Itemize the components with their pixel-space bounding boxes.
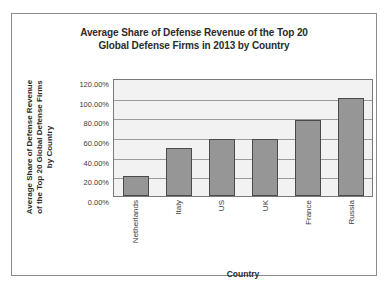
x-axis-tick-label: UK	[265, 189, 274, 200]
x-axis-tick-label: Netherlands	[135, 157, 144, 200]
x-axis-tick-labels: NetherlandsItalyUSUKFranceRussia	[113, 198, 373, 260]
y-axis-tick-label: 60.00%	[59, 139, 109, 148]
bar-slot	[200, 80, 243, 196]
bar-uk[interactable]	[252, 139, 278, 196]
x-axis-title: Country	[113, 269, 373, 279]
bar-slot	[243, 80, 286, 196]
chart-title-line-2: Global Defense Firms in 2013 by Country	[12, 39, 376, 52]
y-axis-title-line-1: Average Share of Defense Revenue	[25, 71, 35, 223]
x-tick-slot: Russia	[330, 198, 373, 260]
y-axis-tick-label: 20.00%	[59, 178, 109, 187]
x-tick-slot: US	[200, 198, 243, 260]
y-axis-tick-label: 100.00%	[59, 99, 109, 108]
y-axis-tick-label: 120.00%	[59, 80, 109, 89]
plot-area	[113, 79, 373, 197]
bar-series	[114, 80, 372, 196]
x-tick-slot: Netherlands	[113, 198, 156, 260]
chart-title: Average Share of Defense Revenue of the …	[12, 26, 376, 52]
y-axis-tick-label: 80.00%	[59, 119, 109, 128]
x-tick-slot: UK	[243, 198, 286, 260]
bar-slot	[157, 80, 200, 196]
bar-us[interactable]	[209, 139, 235, 196]
y-axis-tick-label: 0.00%	[59, 198, 109, 207]
x-axis-tick-label: US	[221, 189, 230, 200]
y-axis-title-line-3: by Country	[45, 71, 55, 223]
x-axis-tick-label: Russia	[351, 176, 360, 200]
x-axis-tick-label: Italy	[178, 185, 187, 200]
x-axis-tick-label: France	[308, 175, 317, 200]
y-axis-title: Average Share of Defense Revenue of the …	[25, 71, 55, 223]
y-axis-tick-labels: 120.00%100.00%80.00%60.00%40.00%20.00%0.…	[59, 84, 109, 202]
chart-title-line-1: Average Share of Defense Revenue of the …	[12, 26, 376, 39]
chart-frame: Average Share of Defense Revenue of the …	[11, 13, 377, 276]
x-tick-slot: France	[286, 198, 329, 260]
y-axis-tick-label: 40.00%	[59, 158, 109, 167]
y-axis-title-line-2: of the Top 20 Global Defense Firms	[35, 71, 45, 223]
x-tick-slot: Italy	[156, 198, 199, 260]
